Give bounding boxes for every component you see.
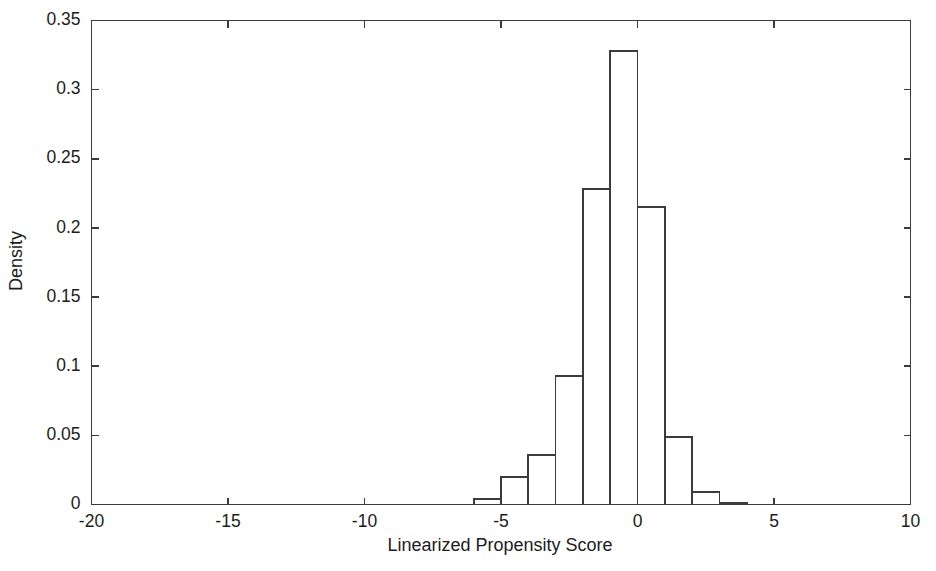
x-tick-label: -5 <box>493 511 509 531</box>
histogram-chart: -20-15-10-50510 00.050.10.150.20.250.30.… <box>0 0 936 571</box>
plot-frame <box>92 21 911 505</box>
x-tick-label: 5 <box>769 511 779 531</box>
x-tick-label: -15 <box>215 511 240 531</box>
y-tick-label: 0.1 <box>56 355 80 375</box>
x-axis-tick-labels: -20-15-10-50510 <box>79 511 921 531</box>
y-axis-tick-labels: 00.050.10.150.20.250.30.35 <box>46 9 80 513</box>
y-tick-label: 0.25 <box>46 147 80 167</box>
figure-container: -20-15-10-50510 00.050.10.150.20.250.30.… <box>0 0 936 571</box>
x-axis-title: Linearized Propensity Score <box>387 535 612 555</box>
y-tick-label: 0.15 <box>46 286 80 306</box>
x-tick-label: -10 <box>352 511 378 531</box>
histogram-bars <box>474 51 747 505</box>
y-tick-label: 0 <box>71 493 81 513</box>
y-tick-label: 0.05 <box>46 424 80 444</box>
x-axis-ticks <box>228 21 774 505</box>
plot-box <box>92 21 911 505</box>
y-tick-label: 0.2 <box>56 217 80 237</box>
x-tick-label: -20 <box>79 511 105 531</box>
y-axis-title: Density <box>6 231 26 291</box>
y-tick-label: 0.3 <box>56 78 80 98</box>
x-tick-label: 10 <box>901 511 921 531</box>
x-tick-label: 0 <box>633 511 643 531</box>
y-tick-label: 0.35 <box>46 9 80 29</box>
y-axis-ticks <box>92 90 911 436</box>
